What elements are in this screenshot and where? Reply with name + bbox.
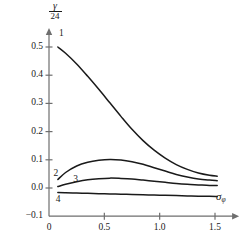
x-tick-label: 1.5 xyxy=(200,222,230,232)
curve-1 xyxy=(58,47,217,176)
curve-label-2: 2 xyxy=(53,168,58,178)
plot-area xyxy=(0,0,242,241)
y-axis-title: γ 24 xyxy=(41,1,69,21)
chart-figure: γ 24 σφ −0.10.00.10.20.30.40.5 00.51.01.… xyxy=(0,0,242,241)
curve-label-3: 3 xyxy=(73,174,78,184)
y-tick-label: −0.1 xyxy=(2,210,43,220)
x-axis-title-subscript: φ xyxy=(221,195,225,204)
data-curves-group xyxy=(58,47,217,196)
x-axis-title: σφ xyxy=(216,190,226,204)
y-tick-label: 0.1 xyxy=(2,154,43,164)
curve-2 xyxy=(58,160,217,181)
x-tick-label: 0 xyxy=(34,222,64,232)
axes-group xyxy=(46,28,239,219)
curve-3 xyxy=(58,178,217,186)
x-tick-label: 1.0 xyxy=(145,222,175,232)
y-axis-title-numerator: γ xyxy=(41,1,69,11)
x-tick-label: 0.5 xyxy=(89,222,119,232)
y-tick-label: 0.3 xyxy=(2,97,43,107)
y-tick-label: 0.2 xyxy=(2,126,43,136)
curve-label-1: 1 xyxy=(59,28,64,38)
y-tick-label: 0.4 xyxy=(2,69,43,79)
curve-label-4: 4 xyxy=(56,194,61,204)
y-tick-label: 0.5 xyxy=(2,41,43,51)
x-axis-arrow xyxy=(232,213,239,219)
curve-4 xyxy=(58,193,217,197)
y-axis-arrow xyxy=(46,28,52,35)
y-axis-title-denominator: 24 xyxy=(41,12,69,21)
y-tick-label: 0.0 xyxy=(2,182,43,192)
